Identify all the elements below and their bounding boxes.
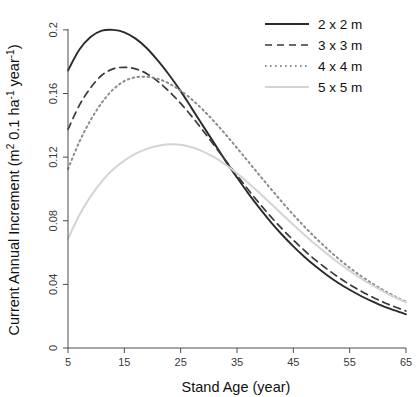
x-tick-label: 35 <box>231 356 243 368</box>
x-tick-label: 45 <box>287 356 299 368</box>
y-axis-title-close: ) <box>6 45 22 50</box>
axes-group: 515253545556500.040.080.120.160.2 <box>47 22 412 368</box>
series-line-4 <box>68 144 406 302</box>
x-tick-label: 25 <box>175 356 187 368</box>
y-axis-title-main: Current Annual Increment (m <box>6 149 22 335</box>
legend-label-2: 3 x 3 m <box>318 38 362 53</box>
x-tick-label: 55 <box>344 356 356 368</box>
y-tick-label: 0.2 <box>47 22 59 37</box>
legend-label-3: 4 x 4 m <box>318 59 362 74</box>
y-tick-label: 0.04 <box>47 274 59 295</box>
series-line-3 <box>68 77 406 302</box>
legend-label-4: 5 x 5 m <box>318 80 362 95</box>
chart-container: 515253545556500.040.080.120.160.2 2 x 2 … <box>0 0 420 397</box>
y-axis-title: Current Annual Increment (m2 0.1 ha-1 ye… <box>5 45 22 336</box>
y-tick-label: 0.08 <box>47 210 59 231</box>
legend-group: 2 x 2 m3 x 3 m4 x 4 m5 x 5 m <box>265 17 362 95</box>
x-axis-title: Stand Age (year) <box>182 379 291 395</box>
x-tick-label: 5 <box>65 356 71 368</box>
y-axis-title-mid: 0.1 ha <box>6 98 22 143</box>
legend-label-1: 2 x 2 m <box>318 17 362 32</box>
x-tick-label: 65 <box>400 356 412 368</box>
y-tick-label: 0.16 <box>47 83 59 104</box>
y-tick-label: 0.12 <box>47 146 59 167</box>
y-axis-title-mid2: year <box>6 58 22 90</box>
cai-line-chart: 515253545556500.040.080.120.160.2 2 x 2 … <box>0 0 420 397</box>
y-tick-label: 0 <box>47 345 59 351</box>
x-tick-label: 15 <box>118 356 130 368</box>
